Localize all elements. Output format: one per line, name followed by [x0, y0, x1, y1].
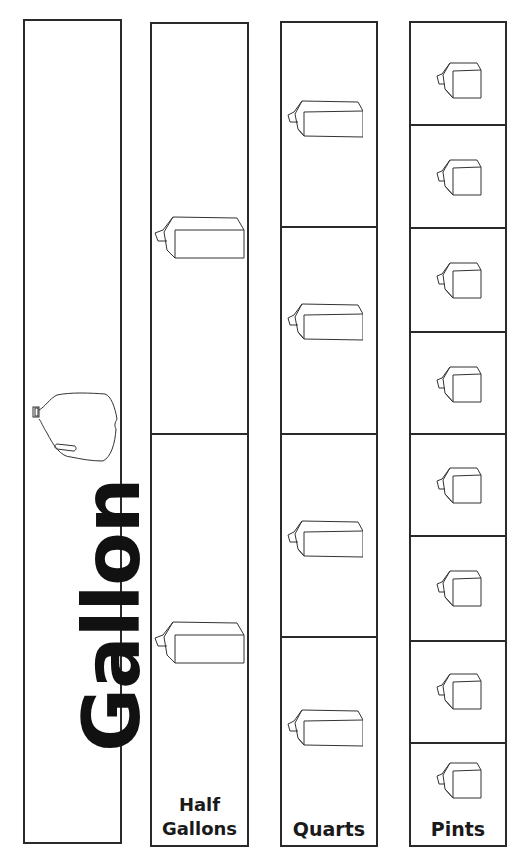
quarts-label: Quarts [282, 817, 376, 841]
pint-cell-6 [411, 535, 505, 640]
small-milk-carton-icon [436, 570, 484, 608]
quart-cell-2 [282, 226, 376, 433]
small-milk-carton-icon [436, 467, 484, 505]
pint-cell-3 [411, 227, 505, 331]
small-milk-carton-icon [436, 62, 484, 100]
milk-carton-icon [287, 302, 363, 342]
gallon-label: Gallon [73, 479, 151, 752]
half-gallon-cell-1 [152, 24, 247, 433]
half-gallon-cell-2: Half Gallons [152, 433, 247, 847]
pint-cell-4 [411, 331, 505, 433]
quart-cell-1 [282, 23, 376, 226]
half-gallons-label: Half Gallons [152, 793, 247, 841]
pint-cell-7 [411, 640, 505, 742]
half-gallons-label-line2: Gallons [152, 817, 247, 841]
small-milk-carton-icon [436, 673, 484, 711]
milk-carton-icon [287, 519, 363, 559]
small-milk-carton-icon [436, 366, 484, 404]
small-milk-carton-icon [436, 159, 484, 197]
small-milk-carton-icon [436, 762, 484, 800]
half-gallons-column: Half Gallons [150, 22, 249, 847]
pint-cell-1 [411, 23, 505, 124]
quart-cell-3 [282, 433, 376, 636]
pint-cell-2 [411, 124, 505, 227]
milk-carton-icon [287, 708, 363, 748]
pints-column: Pints [409, 21, 507, 847]
quart-cell-4: Quarts [282, 636, 376, 845]
gallon-jug-icon [31, 389, 119, 463]
pints-label: Pints [411, 817, 505, 841]
milk-carton-icon [154, 214, 248, 260]
milk-carton-icon [154, 619, 248, 665]
pint-cell-8: Pints [411, 742, 505, 845]
gallon-column: Gallon [23, 19, 122, 844]
pint-cell-5 [411, 433, 505, 535]
milk-carton-icon [287, 99, 363, 139]
half-gallons-label-line1: Half [152, 793, 247, 817]
quarts-column: Quarts [280, 21, 378, 847]
small-milk-carton-icon [436, 262, 484, 300]
